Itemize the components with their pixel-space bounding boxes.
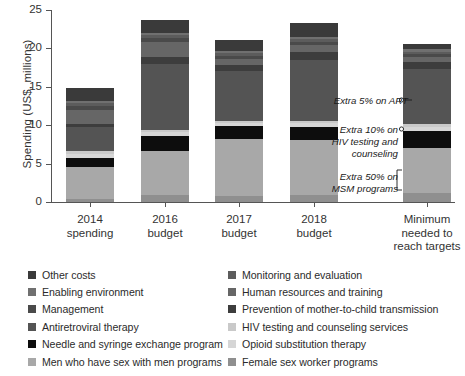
bar-segment [290,45,338,52]
x-tick-mark [239,202,240,207]
annotation-extra-msm: Extra 50% onMSM programs [332,171,398,195]
legend-label: Antiretroviral therapy [42,321,139,333]
x-tick-label-line: needed to [381,227,465,241]
legend-label: Enabling environment [42,286,143,298]
bar-segment [66,88,114,100]
bar-segment [290,60,338,122]
bar-segment [141,57,189,64]
x-tick-mark [427,202,428,207]
x-axis-line [51,202,455,203]
legend-item: Men who have sex with men programs [28,353,238,370]
bar-segment [215,139,263,195]
bar-segment [141,20,189,33]
annotation-line: Extra 10% on [332,124,398,136]
legend-swatch-icon [228,323,236,331]
bar-segment [403,148,451,193]
annotation-extra-testing: Extra 10% onHIV testing andcounseling [332,124,398,160]
y-tick-label: 5 [2,158,42,170]
bar-segment [141,151,189,194]
legend-swatch-icon [228,340,236,348]
legend-label: Human resources and training [242,286,383,298]
legend-column-left: Other costsEnabling environmentManagemen… [28,266,238,370]
plot-area: Spending (US$, millions) 0510152025 2014… [0,0,465,262]
legend-swatch-icon [28,288,36,296]
bar-segment [290,23,338,37]
bar-segment [141,64,189,130]
legend-label: Prevention of mother-to-child transmissi… [242,303,438,315]
x-tick-mark [90,202,91,207]
legend-label: HIV testing and counseling services [242,321,408,333]
legend-label: Opioid substitution therapy [242,338,366,350]
legend-column-right: Monitoring and evaluationHuman resources… [228,266,460,370]
bar-segment [403,131,451,149]
bar-segment [215,126,263,139]
legend-label: Monitoring and evaluation [242,269,362,281]
bar-segment [66,110,114,124]
y-tick-label: 15 [2,81,42,93]
legend-item: Prevention of mother-to-child transmissi… [228,301,460,318]
annotation-line: Extra 5% on ART [334,95,408,107]
bar-segment [141,42,189,57]
bar-segment [66,167,114,199]
legend-item: Other costs [28,266,238,283]
bar-1 [141,20,189,202]
y-tick-label: 20 [2,43,42,55]
legend-item: Female sex worker programs [228,353,460,370]
legend-label: Other costs [42,269,96,281]
legend-swatch-icon [28,323,36,331]
bar-segment [66,127,114,152]
stacked-bar-chart: Spending (US$, millions) 0510152025 2014… [0,0,465,376]
legend-item: Monitoring and evaluation [228,266,460,283]
legend-swatch-icon [28,271,36,279]
bar-segment [290,52,338,59]
x-tick-label-line: budget [268,227,360,241]
legend-item: Human resources and training [228,283,460,300]
y-tick-label: 10 [2,119,42,131]
bar-segment [403,193,451,202]
legend-item: Management [28,301,238,318]
x-tick-label: Minimumneeded toreach targets [381,213,465,254]
x-tick-label-line: reach targets [381,240,465,254]
bar-4 [403,44,451,202]
y-axis-line [51,10,52,202]
bar-segment [403,69,451,125]
legend-item: Opioid substitution therapy [228,336,460,353]
x-tick-mark [314,202,315,207]
legend-item: Needle and syringe exchange program [28,336,238,353]
bar-segment [66,158,114,167]
bar-0 [66,88,114,202]
y-tick-label: 0 [2,196,42,208]
x-tick-label: 2018budget [268,213,360,240]
x-tick-label-line: 2018 [268,213,360,227]
bar-segment [215,40,263,51]
legend-label: Management [42,303,103,315]
annotation-line: counseling [332,148,398,160]
legend-label: Men who have sex with men programs [42,356,222,368]
legend-swatch-icon [228,358,236,366]
annotation-line: Extra 50% on [332,171,398,183]
bar-segment [141,136,189,152]
legend: Other costsEnabling environmentManagemen… [28,266,458,372]
y-axis-ticks: 0510152025 [0,0,42,262]
annotation-line: HIV testing and [332,136,398,148]
x-tick-label-line: Minimum [381,213,465,227]
x-tick-mark [165,202,166,207]
legend-label: Needle and syringe exchange program [42,338,223,350]
bar-segment [141,195,189,202]
legend-swatch-icon [28,305,36,313]
legend-item: HIV testing and counseling services [228,318,460,335]
legend-swatch-icon [28,358,36,366]
annotation-extra-art: Extra 5% on ART [334,95,408,107]
legend-swatch-icon [228,305,236,313]
y-tick-label: 25 [2,4,42,16]
legend-swatch-icon [28,340,36,348]
legend-swatch-icon [228,288,236,296]
bar-2 [215,40,263,202]
annotation-line: MSM programs [332,183,398,195]
bar-segment [215,71,263,121]
legend-item: Enabling environment [28,283,238,300]
legend-item: Antiretroviral therapy [28,318,238,335]
legend-label: Female sex worker programs [242,356,378,368]
legend-swatch-icon [228,271,236,279]
